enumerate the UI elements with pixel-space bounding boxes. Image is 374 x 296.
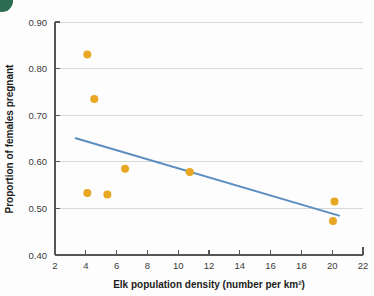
figure-container: 246810121416182022 0.400.500.600.700.800…	[0, 0, 374, 296]
y-tick-label: 0.90	[29, 17, 48, 28]
y-tick-label: 0.70	[29, 110, 48, 121]
y-tick-label: 0.60	[29, 156, 48, 167]
x-tick-label: 10	[173, 260, 184, 271]
x-axis-title: Elk population density (number per km²)	[113, 279, 305, 290]
x-tick-label: 8	[145, 260, 150, 271]
data-point	[331, 197, 339, 205]
x-tick-label: 4	[83, 260, 88, 271]
data-point	[121, 165, 129, 173]
x-tick-label: 18	[296, 260, 307, 271]
x-tick-label: 16	[265, 260, 276, 271]
axes	[55, 22, 363, 255]
trend-line-segment	[75, 138, 340, 216]
x-tick-label: 2	[52, 260, 57, 271]
y-tick-label: 0.50	[29, 203, 48, 214]
y-axis-ticks	[55, 22, 60, 255]
x-tick-label: 14	[235, 260, 246, 271]
scatter-plot: 246810121416182022 0.400.500.600.700.800…	[0, 0, 374, 296]
y-tick-label: 0.40	[29, 250, 48, 261]
trend-line	[75, 138, 340, 216]
data-point	[83, 51, 91, 59]
data-point	[103, 190, 111, 198]
x-tick-label: 6	[114, 260, 119, 271]
data-point	[186, 168, 194, 176]
y-tick-label: 0.80	[29, 63, 48, 74]
x-axis-ticks	[55, 250, 363, 255]
x-tick-label: 12	[204, 260, 215, 271]
gridlines	[55, 22, 363, 255]
data-points	[83, 51, 338, 225]
x-axis-tick-labels: 246810121416182022	[52, 260, 368, 271]
data-point	[83, 189, 91, 197]
data-point	[329, 217, 337, 225]
data-point	[90, 95, 98, 103]
x-tick-label: 20	[327, 260, 338, 271]
y-axis-title: Proportion of females pregnant	[4, 64, 15, 214]
y-axis-tick-labels: 0.400.500.600.700.800.90	[29, 17, 48, 261]
x-tick-label: 22	[358, 260, 369, 271]
